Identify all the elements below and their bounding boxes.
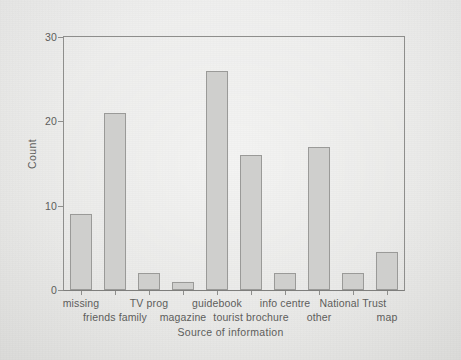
x-tick-mark bbox=[251, 291, 252, 295]
x-category-label: map bbox=[377, 311, 398, 323]
bar-series bbox=[64, 37, 404, 290]
bar bbox=[138, 273, 159, 290]
x-category-label: friends family bbox=[83, 311, 147, 323]
bar-chart-figure: Count 0102030 missingfriends familyTV pr… bbox=[0, 0, 461, 360]
x-tick-mark bbox=[285, 291, 286, 295]
y-tick-mark bbox=[58, 121, 63, 122]
x-category-label: missing bbox=[63, 297, 100, 309]
x-category-label: tourist brochure bbox=[213, 311, 288, 323]
bar bbox=[104, 113, 125, 290]
y-tick-mark bbox=[58, 206, 63, 207]
x-category-label: guidebook bbox=[192, 297, 242, 309]
y-tick-label: 0 bbox=[51, 284, 57, 296]
bar bbox=[376, 252, 397, 290]
x-axis-title: Source of information bbox=[0, 326, 461, 338]
x-tick-mark bbox=[353, 291, 354, 295]
y-tick-label: 20 bbox=[45, 115, 57, 127]
bar bbox=[172, 282, 193, 290]
x-tick-mark bbox=[217, 291, 218, 295]
bar bbox=[342, 273, 363, 290]
bar bbox=[206, 71, 227, 290]
x-tick-mark bbox=[81, 291, 82, 295]
x-tick-mark bbox=[183, 291, 184, 295]
bar bbox=[274, 273, 295, 290]
bar bbox=[308, 147, 329, 290]
x-category-label: National Trust bbox=[320, 297, 387, 309]
x-tick-mark bbox=[149, 291, 150, 295]
y-tick-mark bbox=[58, 290, 63, 291]
bar bbox=[70, 214, 91, 290]
x-tick-mark bbox=[387, 291, 388, 295]
bar bbox=[240, 155, 261, 290]
x-category-label: other bbox=[307, 311, 332, 323]
y-tick-label: 30 bbox=[45, 31, 57, 43]
x-tick-mark bbox=[319, 291, 320, 295]
x-category-label: info centre bbox=[260, 297, 311, 309]
y-tick-mark bbox=[58, 37, 63, 38]
y-tick-label: 10 bbox=[45, 200, 57, 212]
x-tick-mark bbox=[115, 291, 116, 295]
y-axis-tick-labels: 0102030 bbox=[32, 0, 57, 360]
x-category-label: magazine bbox=[160, 311, 207, 323]
x-category-label: TV prog bbox=[130, 297, 168, 309]
